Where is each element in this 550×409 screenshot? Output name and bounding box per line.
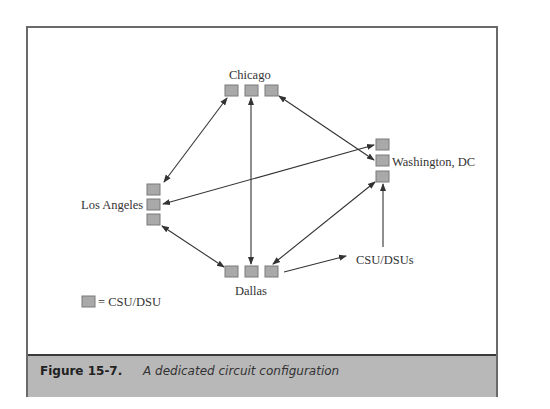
circuit-chicago-la bbox=[164, 98, 227, 182]
csu-dsu-box-la-1 bbox=[147, 184, 160, 195]
circuit-la-dallas bbox=[162, 226, 224, 267]
callout-arrow-dallas bbox=[284, 256, 346, 272]
figure-number: Figure 15-7. bbox=[40, 364, 122, 378]
csu-dsu-box-washington-1 bbox=[376, 139, 389, 150]
csu-dsu-box-la-3 bbox=[147, 214, 160, 225]
figure-frame: Chicago Washington, DC Los Angeles Dalla… bbox=[26, 26, 498, 397]
csu-dsu-box-chicago-2 bbox=[245, 85, 258, 96]
circuit-washington-la bbox=[163, 145, 374, 204]
legend-label: = CSU/DSU bbox=[98, 295, 161, 309]
figure-caption: A dedicated circuit configuration bbox=[143, 364, 339, 378]
csu-dsu-box-chicago-1 bbox=[225, 85, 238, 96]
node-label-chicago: Chicago bbox=[229, 68, 271, 82]
csu-dsu-box-la-2 bbox=[147, 199, 160, 210]
csu-dsu-box-chicago-3 bbox=[265, 85, 278, 96]
circuit-dallas-washington bbox=[273, 182, 375, 264]
node-label-washington: Washington, DC bbox=[392, 155, 475, 169]
csu-dsu-box-dallas-3 bbox=[265, 266, 278, 277]
csu-dsu-box-dallas-2 bbox=[245, 266, 258, 277]
legend-box-icon bbox=[82, 296, 95, 307]
callout-label-csu-dsus: CSU/DSUs bbox=[356, 253, 414, 267]
circuit-chicago-washington bbox=[279, 96, 374, 160]
node-label-dallas: Dallas bbox=[235, 284, 267, 298]
csu-dsu-box-washington-3 bbox=[376, 171, 389, 182]
csu-dsu-box-dallas-1 bbox=[225, 266, 238, 277]
caption-bar: Figure 15-7. A dedicated circuit configu… bbox=[28, 354, 496, 397]
node-label-los-angeles: Los Angeles bbox=[81, 198, 143, 212]
csu-dsu-box-washington-2 bbox=[376, 155, 389, 166]
